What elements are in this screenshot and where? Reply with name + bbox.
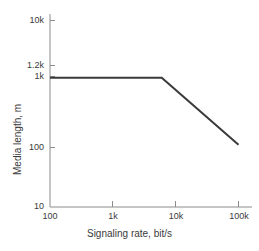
x-tick-label-100: 100: [32, 212, 68, 221]
axis-spines: [50, 14, 252, 207]
x-tick-label-100k: 100k: [221, 212, 257, 221]
x-axis-title: Signaling rate, bit/s: [0, 229, 259, 239]
data-series-line: [50, 78, 239, 145]
x-tick-label-1k: 1k: [95, 212, 131, 221]
x-axis-ticks: [113, 201, 239, 207]
y-tick-label-1k: 1k: [4, 72, 44, 81]
y-axis-ticks: [50, 21, 55, 148]
y-tick-label-1-2k: 1.2k: [4, 61, 44, 70]
y-axis-title: Media length, m: [13, 104, 23, 175]
y-tick-label-10k: 10k: [4, 16, 44, 25]
x-tick-label-10k: 10k: [158, 212, 194, 221]
y-tick-label-10: 10: [4, 202, 44, 211]
y-tick-label-100: 100: [4, 143, 44, 152]
chart-figure: 10k 1.2k 1k 100 10 100 1k 10k 100k Signa…: [0, 0, 259, 251]
